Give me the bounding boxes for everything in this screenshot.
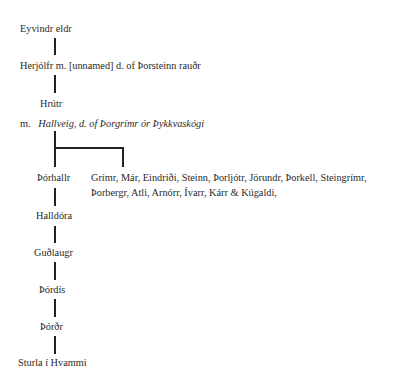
person-herjolfr: Herjólfr m. [unnamed] d. of Þorsteinn ra… bbox=[20, 60, 201, 72]
marriage-line: m. Hallveig, d. of Þorgrímr ór Þykkvaskó… bbox=[20, 118, 204, 130]
descent-line bbox=[54, 38, 56, 55]
descent-line bbox=[54, 262, 56, 280]
person-hrutr: Hrútr bbox=[40, 98, 62, 110]
branch-drop-line bbox=[122, 147, 124, 167]
person-halldora: Halldóra bbox=[36, 210, 72, 222]
person-gudlaugr: Guðlaugr bbox=[34, 247, 73, 259]
descent-line bbox=[54, 226, 56, 243]
siblings-line-2: Þorbergr, Atli, Arnórr, Ívarr, Kárr & Kú… bbox=[91, 187, 277, 199]
person-thorhallr: Þórhallr bbox=[37, 172, 70, 184]
person-thordr: Þórðr bbox=[40, 321, 63, 333]
person-eyvindr: Eyvindr eldr bbox=[20, 23, 72, 35]
siblings-line-1: Grímr, Már, Eindriði, Steinn, Þorljótr, … bbox=[91, 172, 367, 184]
descent-line bbox=[54, 299, 56, 317]
spouse-hallveig: Hallveig, d. of Þorgrímr ór Þykkvaskógi bbox=[38, 118, 204, 129]
branch-line bbox=[54, 147, 124, 149]
descent-line bbox=[54, 336, 56, 354]
marriage-prefix: m. bbox=[20, 118, 31, 129]
descent-line bbox=[54, 75, 56, 93]
person-thordis: Þórdís bbox=[39, 284, 65, 296]
descent-line bbox=[54, 131, 56, 167]
descent-line bbox=[54, 188, 56, 206]
person-sturla: Sturla í Hvammi bbox=[18, 357, 87, 369]
